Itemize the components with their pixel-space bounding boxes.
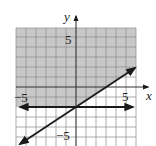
x-tick-5: 5 [122,89,129,104]
inequality-graph: y x 5 −5 −5 5 [0,0,156,146]
x-tick-neg5: −5 [14,90,28,105]
y-tick-5: 5 [65,32,72,47]
y-axis-label: y [62,9,70,24]
x-axis-label: x [145,88,152,103]
y-tick-neg5: −5 [56,128,70,143]
